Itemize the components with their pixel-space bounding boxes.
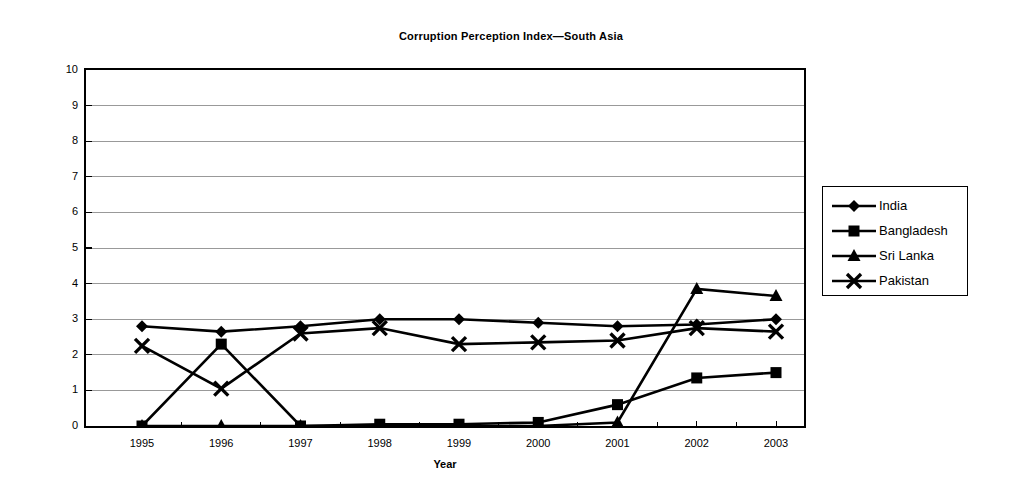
plot-area bbox=[84, 68, 806, 428]
chart-legend: IndiaBangladeshSri LankaPakistan bbox=[822, 186, 968, 296]
x-tick-label: 2001 bbox=[588, 436, 648, 450]
legend-marker-triangle-icon bbox=[831, 247, 877, 265]
y-axis-tick-labels: Index- more is better 109876543210 bbox=[52, 68, 78, 428]
legend-label: Pakistan bbox=[879, 274, 929, 287]
data-point-marker-cross bbox=[135, 339, 149, 353]
data-point-marker-square bbox=[691, 372, 702, 383]
y-tick-label: 2 bbox=[54, 349, 78, 360]
series-line-sri-lanka bbox=[142, 289, 776, 426]
legend-item-bangladesh[interactable]: Bangladesh bbox=[823, 218, 967, 243]
legend-label: India bbox=[879, 199, 907, 212]
data-point-marker-diamond bbox=[215, 326, 227, 338]
data-point-marker-square bbox=[612, 399, 623, 410]
x-tick-label: 2002 bbox=[667, 436, 727, 450]
x-axis-tick-labels: 199519961997199819992000200120022003 bbox=[84, 436, 806, 456]
legend-item-pakistan[interactable]: Pakistan bbox=[823, 268, 967, 293]
x-tick-label: 2003 bbox=[746, 436, 806, 450]
y-tick-label: 7 bbox=[54, 171, 78, 182]
data-point-marker-diamond bbox=[136, 320, 148, 332]
x-tick-label: 1995 bbox=[112, 436, 172, 450]
data-point-marker-diamond bbox=[770, 313, 782, 325]
legend-label: Sri Lanka bbox=[879, 249, 934, 262]
series-line-bangladesh bbox=[142, 344, 776, 426]
y-tick-label: 3 bbox=[54, 313, 78, 324]
legend-marker-cross-icon bbox=[831, 272, 877, 290]
x-tick-label: 2000 bbox=[508, 436, 568, 450]
x-tick-label: 1999 bbox=[429, 436, 489, 450]
legend-item-sri-lanka[interactable]: Sri Lanka bbox=[823, 243, 967, 268]
y-tick-label: 1 bbox=[54, 384, 78, 395]
y-tick-label: 8 bbox=[54, 135, 78, 146]
data-point-marker-square bbox=[771, 367, 782, 378]
data-point-marker-diamond bbox=[848, 200, 860, 212]
y-tick-label: 4 bbox=[54, 278, 78, 289]
legend-marker-diamond-icon bbox=[831, 197, 877, 215]
x-tick-label: 1997 bbox=[271, 436, 331, 450]
series-markers-pakistan bbox=[135, 321, 783, 396]
chart-title: Corruption Perception Index—South Asia bbox=[0, 30, 1022, 42]
y-tick-label: 9 bbox=[54, 100, 78, 111]
y-tick-label: 10 bbox=[54, 64, 78, 75]
data-point-marker-cross bbox=[214, 382, 228, 396]
legend-marker-square-icon bbox=[831, 222, 877, 240]
data-point-marker-diamond bbox=[453, 313, 465, 325]
series-line-pakistan bbox=[142, 328, 776, 389]
legend-label: Bangladesh bbox=[879, 224, 948, 237]
x-tick-label: 1996 bbox=[191, 436, 251, 450]
y-tick-label: 5 bbox=[54, 242, 78, 253]
y-tick-label: 0 bbox=[54, 420, 78, 431]
x-tick-label: 1998 bbox=[350, 436, 410, 450]
plot-svg bbox=[86, 70, 804, 426]
data-point-marker-diamond bbox=[532, 317, 544, 329]
x-axis-title: Year bbox=[84, 458, 806, 470]
data-point-marker-square bbox=[849, 225, 860, 236]
data-point-marker-diamond bbox=[612, 320, 624, 332]
legend-item-india[interactable]: India bbox=[823, 193, 967, 218]
y-tick-label: 6 bbox=[54, 206, 78, 217]
chart-figure: Corruption Perception Index—South Asia I… bbox=[0, 0, 1022, 500]
data-point-marker-square bbox=[216, 339, 227, 350]
